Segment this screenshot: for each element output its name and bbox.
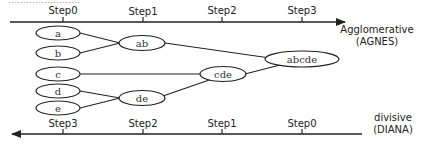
node-abcde-label: abcde (287, 54, 317, 65)
top-step-label: Step3 (287, 5, 316, 16)
node-de: de (119, 91, 165, 106)
node-abcde: abcde (265, 51, 339, 67)
top-step-label: Step0 (48, 5, 77, 16)
node-ab: ab (119, 36, 165, 51)
top-step-label: Step2 (207, 5, 236, 16)
line-b-ab (80, 43, 120, 53)
node-d: d (36, 84, 80, 98)
line-de-cde (163, 78, 215, 96)
node-b-label: b (55, 48, 61, 59)
line-e-de (80, 98, 120, 108)
node-cde: cde (200, 67, 246, 82)
divisive-label: divisive (374, 112, 412, 123)
hierarchical-clustering-diagram: …………………… Step0 Step1 Step2 Step3 Agglome… (0, 0, 429, 144)
bottom-step-label: Step1 (207, 118, 236, 129)
node-e-label: e (55, 103, 61, 114)
top-axis: Step0 Step1 Step2 Step3 Agglomerative (A… (10, 5, 414, 47)
top-step-label: Step1 (128, 6, 157, 17)
node-a-label: a (55, 28, 61, 39)
bottom-axis: Step3 Step2 Step1 Step0 divisive (DIANA) (12, 112, 413, 135)
node-ab-label: ab (136, 38, 148, 49)
merge-lines (80, 33, 280, 108)
bottom-step-label: Step0 (287, 118, 316, 129)
node-c: c (36, 67, 80, 81)
agglomerative-label: Agglomerative (340, 24, 413, 35)
agnes-label: (AGNES) (356, 36, 398, 47)
node-c-label: c (55, 69, 61, 80)
node-d-label: d (55, 86, 62, 97)
bottom-step-label: Step3 (48, 118, 77, 129)
line-cde-abcde (245, 65, 280, 74)
node-b: b (36, 46, 80, 60)
node-a: a (36, 26, 80, 40)
node-de-label: de (136, 93, 148, 104)
node-cde-label: cde (214, 69, 232, 80)
bottom-step-label: Step2 (128, 118, 157, 129)
line-a-ab (80, 33, 120, 43)
node-e: e (36, 101, 80, 115)
diana-label: (DIANA) (373, 124, 413, 135)
line-ab-abcde (165, 43, 270, 58)
line-d-de (80, 91, 120, 98)
